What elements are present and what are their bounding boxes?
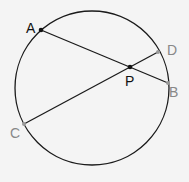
- point-a: [39, 28, 44, 33]
- point-p: [128, 65, 133, 70]
- label-p: P: [125, 73, 134, 89]
- point-c: [22, 122, 26, 126]
- circle-chords-diagram: A P D B C: [0, 0, 189, 182]
- label-b: B: [169, 84, 178, 100]
- label-d: D: [167, 42, 177, 58]
- label-a: A: [26, 20, 36, 36]
- point-d: [156, 50, 160, 54]
- label-c: C: [10, 125, 20, 141]
